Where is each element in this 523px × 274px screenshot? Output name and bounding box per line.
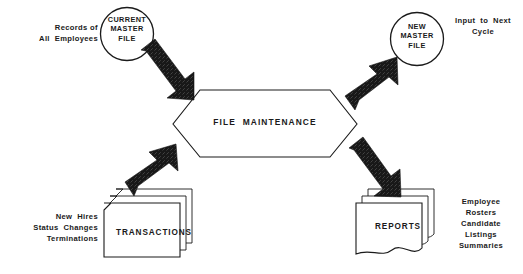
current-master-file-label: CURRENT MASTER FILE: [101, 15, 153, 43]
annotation-records-of-all-employees: Records of All Employees: [24, 22, 98, 44]
annotation-report-types: Employee Rosters Candidate Listings Summ…: [444, 196, 518, 251]
transactions-label: TRANSACTIONS: [106, 228, 202, 238]
file-maintenance-label: FILE MAINTENANCE: [190, 118, 340, 128]
reports-label: REPORTS: [356, 222, 440, 232]
new-master-file-label: NEW MASTER FILE: [391, 22, 443, 50]
file-maintenance-diagram: CURRENT MASTER FILE NEW MASTER FILE FILE…: [0, 0, 523, 274]
annotation-transaction-types: New Hires Status Changes Terminations: [12, 211, 98, 244]
arrow-current-master-to-process: [141, 39, 194, 100]
arrow-process-to-reports: [349, 137, 401, 197]
annotation-input-to-next-cycle: Input to Next Cycle: [447, 15, 519, 37]
node-transactions[interactable]: [104, 189, 192, 257]
arrow-process-to-new-master: [345, 57, 398, 110]
arrow-transactions-to-process: [125, 144, 178, 196]
